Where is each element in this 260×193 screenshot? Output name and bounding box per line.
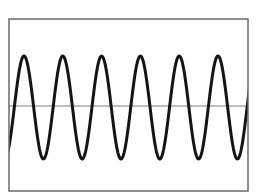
waveform-diagram bbox=[0, 0, 260, 193]
plot-frame bbox=[9, 19, 248, 191]
sine-wave-curve bbox=[7, 56, 250, 159]
